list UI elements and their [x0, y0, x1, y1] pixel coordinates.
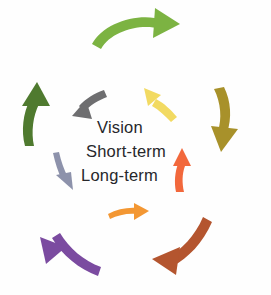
orangered-arrow-right	[173, 148, 191, 192]
yellow-arrow-top-right	[144, 88, 177, 122]
diagram-canvas: Vision Short-term Long-term	[0, 0, 271, 295]
gray-arrow-top-left	[72, 90, 107, 119]
purple-arrow-bottom-left	[40, 233, 101, 276]
green-arrow-top	[92, 8, 180, 49]
arrow-ring-diagram	[0, 0, 271, 295]
slate-arrow-left	[53, 152, 73, 190]
orange-arrow-bottom	[108, 203, 149, 220]
darkgreen-arrow-left	[22, 82, 50, 146]
brown-arrow-bottom-right	[152, 217, 212, 275]
olive-arrow-right	[211, 87, 238, 152]
